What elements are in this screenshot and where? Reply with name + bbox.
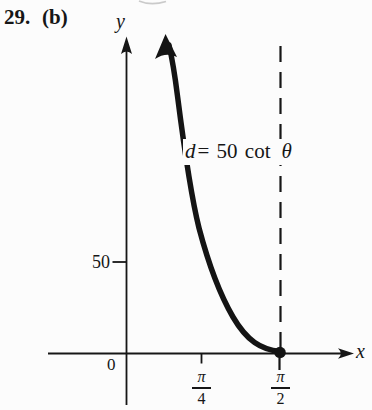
curve-equation-label: d= 50 cotθ bbox=[183, 139, 295, 165]
y-axis-label: y bbox=[116, 11, 125, 31]
origin-label: 0 bbox=[107, 356, 116, 373]
curve-arrowhead-icon bbox=[155, 34, 177, 59]
problem-part: (b) bbox=[42, 7, 68, 28]
curve-equation-var: θ bbox=[282, 139, 292, 163]
y-tick-label-50: 50 bbox=[92, 253, 110, 271]
fraction-numerator: π bbox=[268, 369, 293, 387]
figure-canvas: 29. (b) y x 50 0 d= 50 cotθ π 4 π 2 bbox=[0, 0, 372, 410]
endpoint-dot bbox=[274, 347, 286, 359]
y-axis-arrowhead-icon bbox=[121, 37, 132, 55]
fraction-denominator: 4 bbox=[189, 389, 214, 407]
plot-svg bbox=[0, 0, 372, 410]
fraction-denominator: 2 bbox=[268, 389, 293, 407]
stray-scan-mark bbox=[139, 1, 166, 4]
curve-equation-lhs: d bbox=[185, 139, 196, 163]
curve-line bbox=[169, 45, 280, 352]
problem-number: 29. bbox=[4, 7, 30, 28]
x-tick-label-pi-over-2: π 2 bbox=[268, 369, 293, 407]
x-axis-label: x bbox=[356, 341, 365, 361]
curve-equation-mid: = 50 cot bbox=[198, 139, 271, 163]
x-tick-label-pi-over-4: π 4 bbox=[189, 369, 214, 407]
fraction-numerator: π bbox=[189, 369, 214, 387]
